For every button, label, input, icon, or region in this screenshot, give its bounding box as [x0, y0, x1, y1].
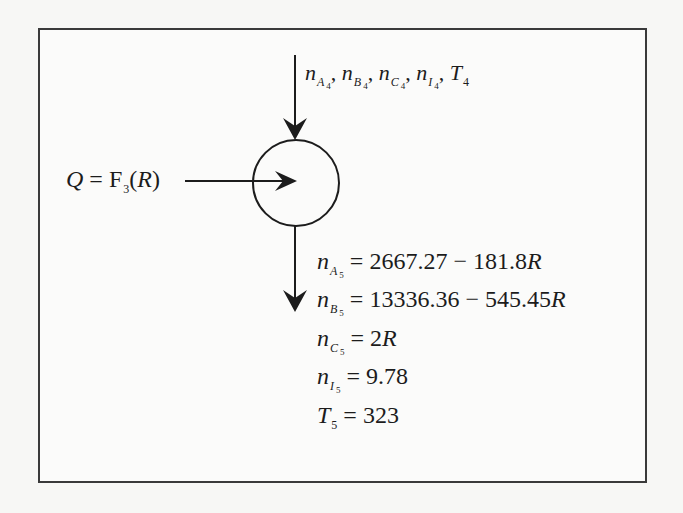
- input-arrow: [283, 55, 307, 140]
- output-equation-nI5: nI5=9.78: [317, 364, 408, 388]
- output-equation-nA5: nA5=2667.27 − 181.8R: [317, 249, 542, 273]
- q-symbol: Q: [66, 166, 83, 192]
- input-var-nC4: nC4: [379, 60, 406, 85]
- function-argument: R: [137, 166, 152, 192]
- separator: ,: [331, 60, 337, 85]
- heat-input-label: Q=F3(R): [66, 167, 160, 191]
- input-var-T4: T4: [450, 60, 469, 85]
- output-equation-T5: T5=323: [317, 403, 399, 427]
- input-var-nI4: nI4: [416, 60, 439, 85]
- separator: ,: [368, 60, 374, 85]
- equals-sign: =: [89, 166, 103, 192]
- separator: ,: [405, 60, 411, 85]
- input-stream-label: nA4, nB4, nC4, nI4, T4: [305, 62, 469, 84]
- output-arrow: [283, 226, 307, 312]
- function-subscript: 3: [123, 182, 129, 196]
- heat-input-arrow: [185, 171, 297, 191]
- output-equation-nB5: nB5=13336.36 − 545.45R: [317, 287, 566, 311]
- function-symbol: F: [109, 166, 122, 192]
- input-var-nA4: nA4: [305, 60, 331, 85]
- separator: ,: [439, 60, 445, 85]
- input-var-nB4: nB4: [342, 60, 368, 85]
- process-node-circle: [253, 140, 339, 226]
- output-equation-nC5: nC5=2R: [317, 326, 397, 350]
